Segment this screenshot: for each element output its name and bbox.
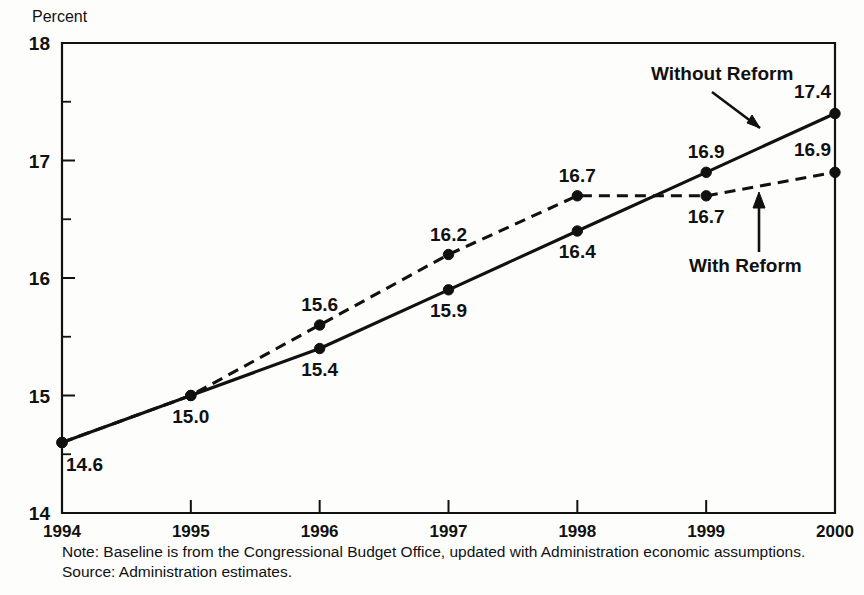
annotation-without-reform-arrowhead [747, 115, 760, 128]
data-point-with-reform-1995 [186, 390, 196, 400]
plot-frame [62, 43, 835, 513]
value-label-without-reform-1997: 15.9 [430, 300, 467, 321]
data-point-without-reform-2000 [830, 108, 840, 118]
annotation-without-reform: Without Reform [651, 63, 793, 128]
x-tick-label-1995: 1995 [172, 522, 210, 541]
x-tick-label-1996: 1996 [301, 522, 339, 541]
x-tick-label-1998: 1998 [558, 522, 596, 541]
value-label-without-reform-1994: 14.6 [66, 454, 103, 475]
annotation-with-reform-label: With Reform [689, 255, 802, 276]
y-tick-label-18: 18 [29, 33, 50, 54]
y-axis-title: Percent [32, 8, 88, 25]
value-label-with-reform-1999: 16.7 [688, 206, 725, 227]
data-point-with-reform-1998 [572, 191, 582, 201]
data-point-without-reform-1997 [443, 285, 453, 295]
value-label-without-reform-2000: 17.4 [794, 81, 831, 102]
annotation-with-reform-arrowhead [753, 192, 765, 208]
series-lines [62, 114, 835, 443]
line-chart-canvas: Percent 1415161718 199419951996199719981… [0, 0, 864, 595]
value-label-without-reform-1998: 16.4 [559, 241, 596, 262]
series-value-labels: 14.615.015.415.916.416.917.415.616.216.7… [66, 81, 831, 475]
x-tick-label-1999: 1999 [687, 522, 725, 541]
data-point-with-reform-2000 [830, 167, 840, 177]
data-point-without-reform-1999 [701, 167, 711, 177]
series-line-without-reform [62, 114, 835, 443]
y-tick-label-16: 16 [29, 268, 50, 289]
data-point-with-reform-1999 [701, 191, 711, 201]
source-line: Source: Administration estimates. [62, 563, 292, 580]
y-tick-label-14: 14 [29, 503, 51, 524]
value-label-with-reform-1996: 15.6 [301, 294, 338, 315]
x-axis-ticks [62, 500, 835, 513]
data-point-with-reform-1997 [443, 249, 453, 259]
data-point-without-reform-1998 [572, 226, 582, 236]
x-tick-label-1994: 1994 [43, 522, 81, 541]
value-label-with-reform-1997: 16.2 [430, 224, 467, 245]
annotation-without-reform-label: Without Reform [651, 63, 793, 84]
x-axis-tick-labels: 1994199519961997199819992000 [43, 522, 854, 541]
value-label-without-reform-1995: 15.0 [172, 406, 209, 427]
y-tick-label-17: 17 [29, 151, 50, 172]
value-label-with-reform-2000: 16.9 [794, 139, 831, 160]
data-point-with-reform-1996 [315, 320, 325, 330]
data-point-with-reform-1994 [57, 437, 67, 447]
y-axis-tick-labels: 1415161718 [29, 33, 51, 524]
note-line: Note: Baseline is from the Congressional… [62, 543, 805, 560]
value-label-without-reform-1999: 16.9 [688, 141, 725, 162]
chart-figure: Percent 1415161718 199419951996199719981… [0, 0, 864, 595]
y-tick-label-15: 15 [29, 386, 51, 407]
value-label-without-reform-1996: 15.4 [301, 359, 338, 380]
x-tick-label-1997: 1997 [430, 522, 468, 541]
value-label-with-reform-1998: 16.7 [559, 165, 596, 186]
data-point-without-reform-1996 [315, 343, 325, 353]
annotation-with-reform: With Reform [689, 192, 802, 276]
x-tick-label-2000: 2000 [816, 522, 854, 541]
